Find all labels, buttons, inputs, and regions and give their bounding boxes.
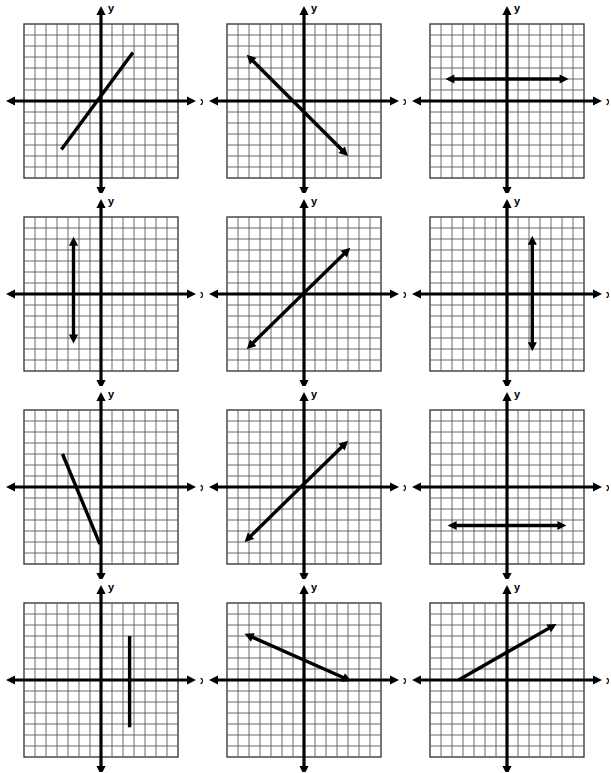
x-axis-arrow-left [209,675,218,684]
x-axis-arrow-left [412,289,421,298]
graph-panel-4: xy [0,193,203,386]
y-axis-arrow-up [96,6,105,15]
x-axis-arrow-left [209,482,218,491]
y-axis-label: y [311,2,318,14]
x-axis-arrow-left [209,96,218,105]
y-axis-arrow-up [96,392,105,401]
graph-panel-8: xy [203,386,406,579]
x-axis-arrow-right [187,482,196,491]
y-axis-label: y [108,581,115,593]
graph-panel-9: xy [406,386,609,579]
graph-panel-11: xy [203,579,406,772]
x-axis-arrow-right [187,289,196,298]
x-axis-arrow-right [187,675,196,684]
x-axis-arrow-left [6,482,15,491]
x-axis-arrow-left [6,96,15,105]
y-axis-arrow-up [299,392,308,401]
y-axis-arrow-up [502,392,511,401]
x-axis-arrow-left [412,96,421,105]
y-axis-label: y [514,581,521,593]
x-axis-label: x [606,481,609,493]
graph-panel-7: xy [0,386,203,579]
worksheet-page: xyxyxyxyxyxyxyxyxyxyxyxy [0,0,611,773]
y-axis-arrow-up [299,6,308,15]
x-axis-arrow-left [6,289,15,298]
y-axis-label: y [311,195,318,207]
y-axis-label: y [311,388,318,400]
y-axis-arrow-up [502,6,511,15]
x-axis-arrow-right [593,482,602,491]
graph-panel-3: xy [406,0,609,193]
y-axis-arrow-down [299,766,308,772]
x-axis-arrow-right [593,96,602,105]
x-axis-arrow-right [593,289,602,298]
x-axis-arrow-right [390,96,399,105]
y-axis-arrow-up [502,585,511,594]
graph-panel-6: xy [406,193,609,386]
graph-panel-1: xy [0,0,203,193]
x-axis-arrow-right [187,96,196,105]
y-axis-arrow-down [502,766,511,772]
y-axis-arrow-up [299,585,308,594]
y-axis-label: y [108,388,115,400]
graph-panel-12: xy [406,579,609,772]
x-axis-arrow-right [390,482,399,491]
y-axis-arrow-up [96,585,105,594]
graph-panel-5: xy [203,193,406,386]
y-axis-arrow-down [96,766,105,772]
y-axis-label: y [108,195,115,207]
graph-panel-2: xy [203,0,406,193]
y-axis-arrow-up [96,199,105,208]
x-axis-label: x [606,95,609,107]
x-axis-arrow-right [593,675,602,684]
x-axis-label: x [606,674,609,686]
x-axis-label: x [606,288,609,300]
x-axis-arrow-right [390,675,399,684]
x-axis-arrow-left [6,675,15,684]
x-axis-arrow-left [412,482,421,491]
x-axis-arrow-right [390,289,399,298]
y-axis-arrow-up [502,199,511,208]
y-axis-label: y [514,388,521,400]
x-axis-arrow-left [209,289,218,298]
y-axis-label: y [311,581,318,593]
graph-panel-10: xy [0,579,203,772]
y-axis-label: y [514,195,521,207]
y-axis-label: y [108,2,115,14]
x-axis-arrow-left [412,675,421,684]
y-axis-arrow-up [299,199,308,208]
y-axis-label: y [514,2,521,14]
